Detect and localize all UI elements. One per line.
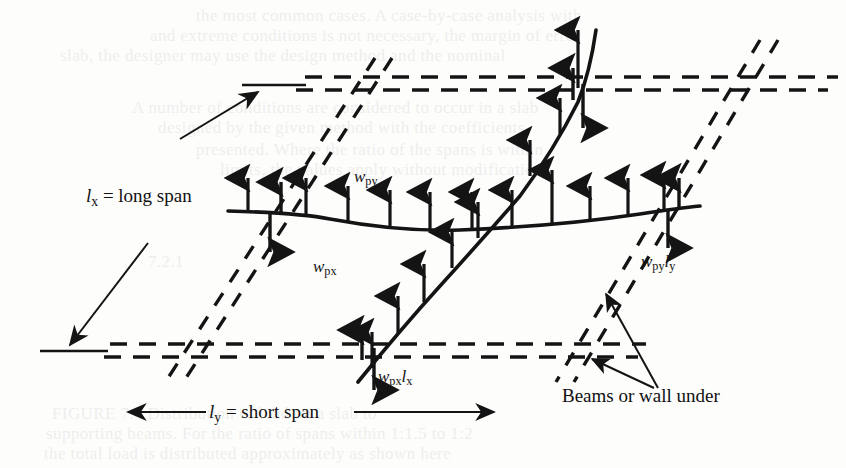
short-span-text: = short span xyxy=(226,401,319,422)
load-label-wpx: wpx xyxy=(313,258,337,278)
wpxlx-symbol: w xyxy=(378,367,389,386)
distributed-load-arrows-wpx xyxy=(372,30,578,368)
long-span-text: = long span xyxy=(103,185,192,206)
wpy-symbol: w xyxy=(354,167,365,186)
distributed-load-arrows-wpy xyxy=(248,170,664,230)
wpx-symbol: w xyxy=(313,257,324,276)
reaction-label-wpyly: wpyly xyxy=(641,253,675,273)
wpy-subscript: py xyxy=(365,174,377,188)
wpyly-subscript2: y xyxy=(669,259,675,273)
short-span-subscript: y xyxy=(214,410,221,425)
long-span-label: lx = long span xyxy=(86,186,192,209)
load-label-wpy: wpy xyxy=(354,168,378,188)
wpx-subscript: px xyxy=(324,264,336,278)
wpxlx-subscript: px xyxy=(389,374,401,388)
reaction-label-wpxlx: wpxlx xyxy=(378,368,412,388)
long-span-subscript: x xyxy=(91,194,98,209)
wpyly-symbol: w xyxy=(641,252,652,271)
beams-or-wall-under-label: Beams or wall under xyxy=(562,386,720,405)
short-span-label: ly = short span xyxy=(209,402,319,425)
long-span-dimension xyxy=(40,85,306,351)
wpxlx-subscript2: x xyxy=(406,374,412,388)
figure-container: the most common cases. A case-by-case an… xyxy=(0,0,846,468)
beam-line-left xyxy=(168,58,392,378)
wpyly-subscript: py xyxy=(652,259,664,273)
